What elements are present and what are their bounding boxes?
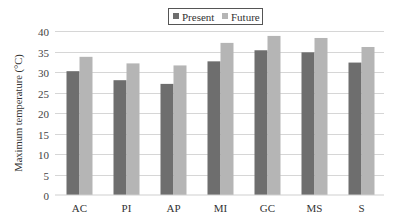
legend-label-future: Future <box>231 11 260 23</box>
bar-future-ms <box>315 38 328 195</box>
bar-future-ac <box>80 57 93 195</box>
y-tick-label: 35 <box>38 47 50 59</box>
bar-future-s <box>362 47 375 195</box>
legend-swatch-present <box>173 13 179 19</box>
legend-label-present: Present <box>182 11 214 23</box>
x-tick-label: AP <box>166 202 180 214</box>
legend: Present Future <box>169 9 263 25</box>
y-tick-label: 25 <box>38 88 50 100</box>
bar-chart: 0510152025303540 ACPIAPMIGCMSS Maximum t… <box>0 0 403 221</box>
x-axis-labels: ACPIAPMIGCMSS <box>72 202 365 214</box>
x-tick-label: MI <box>214 202 228 214</box>
x-tick-label: S <box>358 202 364 214</box>
x-tick-label: MS <box>307 202 323 214</box>
bar-present-ac <box>67 71 80 195</box>
y-tick-label: 20 <box>38 108 50 120</box>
y-tick-label: 40 <box>38 26 50 38</box>
bar-present-gc <box>255 50 268 195</box>
bar-future-ap <box>174 65 187 195</box>
bar-present-pi <box>114 80 127 195</box>
bar-present-ap <box>161 84 174 195</box>
bar-future-pi <box>127 63 140 195</box>
y-tick-label: 15 <box>38 129 50 141</box>
x-tick-label: PI <box>122 202 132 214</box>
y-tick-label: 5 <box>44 170 50 182</box>
x-tick-label: GC <box>260 202 275 214</box>
bar-future-gc <box>268 36 281 195</box>
y-tick-label: 10 <box>38 149 50 161</box>
bar-future-mi <box>221 43 234 195</box>
y-tick-label: 0 <box>44 190 50 202</box>
y-axis-ticks: 0510152025303540 <box>38 26 50 202</box>
x-tick-label: AC <box>72 202 87 214</box>
bar-present-ms <box>302 52 315 195</box>
bar-present-s <box>349 63 362 195</box>
y-axis-title: Maximum temperature (°C) <box>13 54 25 172</box>
bars <box>67 36 375 195</box>
bar-present-mi <box>208 61 221 195</box>
legend-swatch-future <box>222 13 228 19</box>
y-tick-label: 30 <box>38 67 50 79</box>
